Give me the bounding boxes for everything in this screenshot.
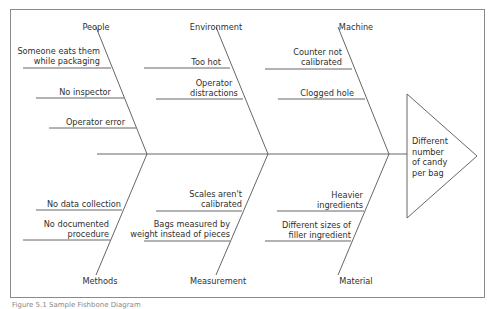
cause-people-1: Someone eats them while packaging [17,46,100,66]
bone-methods [96,154,147,275]
category-machine: Machine [328,22,384,32]
bone-measurement [216,154,268,275]
cause-people-3: Operator error [66,117,125,127]
category-measurement: Measurement [180,276,256,286]
cause-methods-2: No documented procedure [44,219,109,239]
figure-caption: Figure 5.1 Sample Fishbone Diagram [12,301,141,309]
cause-measurement-2: Bags measured by weight instead of piece… [130,219,230,239]
cause-material-2: Different sizes of filler ingredient [282,220,351,240]
category-environment: Environment [180,22,252,32]
cause-measurement-1: Scales aren't calibrated [189,189,242,209]
cause-machine-1: Counter not calibrated [293,47,342,67]
category-methods: Methods [72,276,128,286]
cause-machine-2: Clogged hole [300,88,354,98]
bone-material [338,154,389,275]
category-people: People [70,22,122,32]
cause-people-2: No inspector [59,87,111,97]
category-material: Material [328,276,384,286]
cause-environment-1: Too hot [191,57,221,67]
cause-environment-2: Operator distractions [184,78,244,98]
cause-material-1: Heavier ingredients [317,190,363,210]
cause-methods-1: No data collection [47,199,121,209]
effect-label: Different number of candy per bag [412,136,448,178]
